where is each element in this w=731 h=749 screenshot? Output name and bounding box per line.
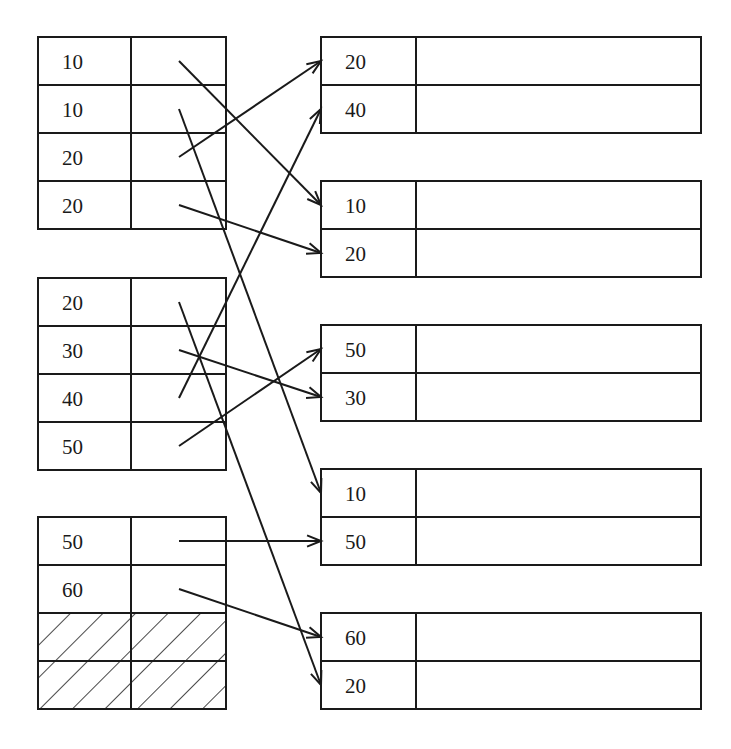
right-block-4: 1050 — [321, 469, 701, 565]
key-cell — [38, 133, 131, 181]
key-label: 30 — [345, 386, 366, 410]
record-cell — [416, 613, 701, 661]
record-cell — [416, 181, 701, 229]
key-cell — [321, 229, 416, 277]
right-block-5: 6020 — [321, 613, 701, 709]
pointer-arrow — [179, 109, 321, 493]
key-cell — [38, 181, 131, 229]
key-label: 20 — [62, 194, 83, 218]
key-cell — [38, 565, 131, 613]
right-block-1: 2040 — [321, 37, 701, 133]
key-cell — [321, 517, 416, 565]
record-cell — [416, 37, 701, 85]
record-cell — [416, 229, 701, 277]
right-data-blocks: 20401020503010506020 — [321, 37, 701, 709]
key-cell — [321, 181, 416, 229]
key-label: 40 — [62, 387, 83, 411]
pointer-arrow — [179, 61, 321, 157]
key-cell — [321, 85, 416, 133]
pointer-cell — [131, 374, 226, 422]
pointer-cell — [131, 85, 226, 133]
pointer-cell — [131, 37, 226, 85]
key-label: 20 — [345, 674, 366, 698]
pointer-cell — [131, 422, 226, 470]
key-label: 50 — [345, 530, 366, 554]
key-cell — [38, 278, 131, 326]
key-label: 20 — [62, 291, 83, 315]
key-cell — [38, 517, 131, 565]
key-cell — [38, 422, 131, 470]
record-cell — [416, 517, 701, 565]
key-cell — [38, 85, 131, 133]
key-label: 50 — [345, 338, 366, 362]
key-cell — [321, 661, 416, 709]
key-label: 10 — [62, 98, 83, 122]
left-block-3: 5060 — [38, 517, 226, 709]
pointer-cell — [131, 133, 226, 181]
left-block-1: 10102020 — [38, 37, 226, 229]
diagram-canvas: 10102020203040505060 2040102050301050602… — [0, 0, 731, 749]
key-cell — [321, 373, 416, 421]
record-cell — [416, 85, 701, 133]
key-label: 20 — [62, 146, 83, 170]
left-block-2: 20304050 — [38, 278, 226, 470]
key-cell — [321, 613, 416, 661]
key-label: 30 — [62, 339, 83, 363]
key-cell — [321, 37, 416, 85]
key-cell — [38, 326, 131, 374]
key-label: 10 — [345, 482, 366, 506]
key-label: 40 — [345, 98, 366, 122]
key-label: 60 — [62, 578, 83, 602]
left-index-blocks: 10102020203040505060 — [38, 37, 226, 709]
right-block-2: 1020 — [321, 181, 701, 277]
key-cell — [321, 325, 416, 373]
record-cell — [416, 373, 701, 421]
record-cell — [416, 469, 701, 517]
key-label: 10 — [345, 194, 366, 218]
record-cell — [416, 325, 701, 373]
arrowhead-icon — [306, 349, 321, 361]
right-block-3: 5030 — [321, 325, 701, 421]
pointer-arrow — [179, 109, 321, 398]
arrowhead-icon — [306, 61, 321, 73]
key-cell — [38, 374, 131, 422]
key-label: 10 — [62, 50, 83, 74]
key-label: 20 — [345, 50, 366, 74]
index-pointer-diagram: 10102020203040505060 2040102050301050602… — [0, 0, 731, 749]
pointer-cell — [131, 181, 226, 229]
key-cell — [38, 37, 131, 85]
key-label: 60 — [345, 626, 366, 650]
key-label: 50 — [62, 530, 83, 554]
record-cell — [416, 661, 701, 709]
key-label: 50 — [62, 435, 83, 459]
key-cell — [321, 469, 416, 517]
key-label: 20 — [345, 242, 366, 266]
pointer-arrow — [179, 535, 321, 546]
pointer-arrow — [179, 349, 321, 446]
pointer-cell — [131, 565, 226, 613]
pointer-cell — [131, 278, 226, 326]
